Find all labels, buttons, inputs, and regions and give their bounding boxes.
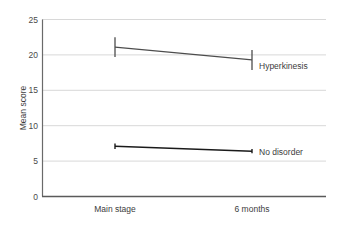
mean-score-line-chart: 25 20 15 10 5 0 Mean score Hyperkinesis …: [0, 0, 337, 234]
x-category-label-6-months: 6 months: [235, 204, 270, 214]
x-category-label-main-stage: Main stage: [94, 204, 136, 214]
chart-container: 25 20 15 10 5 0 Mean score Hyperkinesis …: [0, 0, 337, 234]
y-tick-label-0: 0: [33, 192, 38, 202]
grid-lines: [42, 20, 326, 162]
y-tick-label-20: 20: [29, 50, 39, 60]
y-tick-label-5: 5: [33, 156, 38, 166]
series-no-disorder-line: [115, 146, 252, 151]
series-label-no-disorder: No disorder: [259, 147, 303, 157]
y-tick-label-10: 10: [29, 121, 39, 131]
series-no-disorder: [115, 143, 252, 153]
y-tick-labels: 25 20 15 10 5 0: [29, 15, 39, 202]
y-axis-title: Mean score: [18, 86, 28, 131]
y-tick-label-15: 15: [29, 85, 39, 95]
series-label-hyperkinesis: Hyperkinesis: [259, 61, 308, 71]
y-tick-label-25: 25: [29, 15, 39, 25]
series-hyperkinesis: [115, 37, 252, 70]
series-hyperkinesis-line: [115, 47, 252, 60]
